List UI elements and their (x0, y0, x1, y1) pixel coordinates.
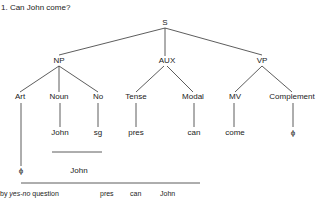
output-can: can (130, 190, 141, 198)
leaf-sg: sg (94, 129, 102, 137)
output-pres: pres (100, 190, 114, 198)
node-modal: Modal (182, 93, 204, 101)
node-tense: Tense (125, 93, 146, 101)
transformation-label: by yes-no question (0, 190, 59, 198)
leaf-phi-art: ϕ (19, 167, 23, 175)
output-john: John (160, 190, 175, 198)
node-art: Art (15, 93, 25, 101)
leaf-come: come (225, 129, 245, 137)
node-complement: Complement (269, 93, 314, 101)
leaf-pres: pres (128, 129, 144, 137)
leaf-can: can (188, 129, 201, 137)
leaf-phi-complement: ϕ (291, 129, 295, 137)
node-np: NP (53, 57, 64, 65)
node-noun: Noun (49, 93, 68, 101)
node-mv: MV (229, 93, 241, 101)
node-no: No (93, 93, 103, 101)
node-vp: VP (257, 57, 268, 65)
leaf-john: John (51, 129, 68, 137)
node-aux: AUX (159, 57, 175, 65)
node-s: S (162, 19, 167, 27)
merged-john: John (70, 167, 87, 175)
